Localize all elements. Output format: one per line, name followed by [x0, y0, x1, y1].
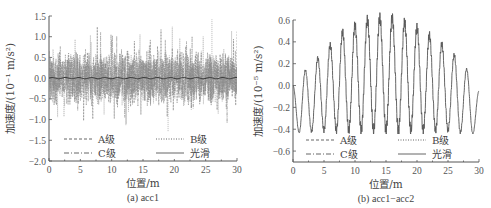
- y-tick-label: 0.0: [34, 74, 46, 84]
- legend-entry: C级: [340, 149, 358, 160]
- x-tick-label: 10: [350, 166, 360, 176]
- x-tick-label: 25: [201, 165, 211, 175]
- chart-a: 0510152025301.51.00.50.0−0.5−1.0−1.5−2.0…: [4, 12, 242, 205]
- x-tick-label: 30: [232, 165, 242, 175]
- y-tick-label: −0.6: [273, 147, 290, 157]
- legend-entry: B级: [432, 135, 449, 146]
- legend-entry: C级: [98, 148, 116, 159]
- y-axis-label: 加速度/(10⁻⁵ m/s²): [252, 45, 264, 136]
- y-tick-label: 1.5: [34, 12, 46, 22]
- x-axis-label: 位置/m: [369, 178, 403, 190]
- x-tick-label: 0: [47, 165, 52, 175]
- y-axis-label: 加速度/(10⁻¹ m/s²): [4, 43, 16, 134]
- y-tick-label: 0.0: [278, 81, 290, 91]
- x-tick-label: 15: [381, 166, 391, 176]
- chart-caption: (a) acc1: [127, 192, 159, 204]
- y-tick-label: −1.0: [29, 115, 46, 125]
- y-tick-label: 0.2: [278, 59, 290, 69]
- legend-entry: A级: [339, 135, 357, 146]
- x-tick-label: 25: [443, 166, 453, 176]
- y-tick-label: 0.4: [278, 37, 290, 47]
- x-tick-label: 5: [78, 165, 83, 175]
- x-tick-label: 20: [412, 166, 422, 176]
- y-tick-label: 0.6: [278, 16, 290, 26]
- x-tick-label: 5: [322, 166, 327, 176]
- legend-entry: 光滑: [432, 148, 452, 160]
- legend-entry: 光滑: [190, 147, 210, 159]
- x-tick-label: 20: [170, 165, 180, 175]
- legend-entry: A级: [97, 134, 115, 145]
- chart-figure: 0510152025301.51.00.50.0−0.5−1.0−1.5−2.0…: [0, 0, 491, 208]
- x-tick-label: 0: [291, 166, 296, 176]
- y-tick-label: −0.5: [29, 94, 46, 104]
- legend-entry: B级: [190, 134, 207, 145]
- x-tick-label: 30: [474, 166, 484, 176]
- y-tick-label: −1.5: [29, 136, 46, 146]
- chart-caption: (b) acc1−acc2: [358, 193, 414, 205]
- series-line: [293, 13, 479, 136]
- y-tick-label: −0.2: [273, 103, 290, 113]
- y-tick-label: 0.5: [34, 53, 46, 63]
- chart-b: 0510152025300.60.40.20.0−0.2−0.4−0.6位置/m…: [252, 13, 484, 205]
- y-tick-label: −0.4: [273, 125, 290, 135]
- y-tick-label: 1.0: [34, 32, 46, 42]
- x-axis-label: 位置/m: [126, 177, 160, 189]
- x-tick-label: 10: [107, 165, 117, 175]
- x-tick-label: 15: [138, 165, 148, 175]
- y-tick-label: −2.0: [29, 157, 46, 167]
